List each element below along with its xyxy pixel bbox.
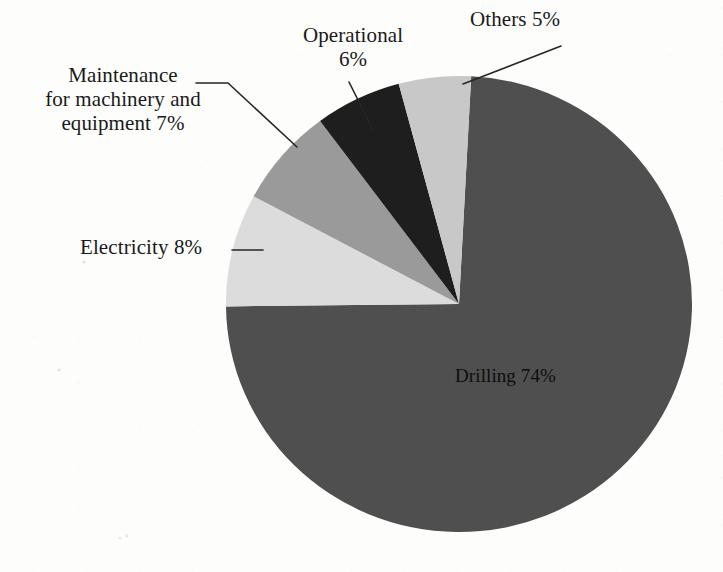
pie-chart-figure: Others 5% Operational 6% Maintenance for… xyxy=(0,0,723,572)
scan-speck xyxy=(126,535,129,538)
scan-speck xyxy=(57,368,60,371)
pie-label-electricity: Electricity 8% xyxy=(80,236,202,260)
pie-label-maintenance: Maintenance for machinery and equipment … xyxy=(18,64,228,136)
pie-label-drilling: Drilling 74% xyxy=(455,365,556,387)
scan-speck xyxy=(119,537,121,539)
leader-line-others xyxy=(463,46,561,84)
pie-label-others: Others 5% xyxy=(470,8,560,32)
pie-label-operational: Operational 6% xyxy=(278,24,428,72)
scan-speck xyxy=(83,261,86,264)
